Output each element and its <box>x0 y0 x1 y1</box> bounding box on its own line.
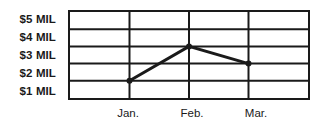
y-axis-label-group: $5 MIL $4 MIL $3 MIL $2 MIL $1 MIL <box>0 10 62 100</box>
x-tick-label-mar: Mar. <box>226 104 286 122</box>
data-point-mar <box>246 61 252 67</box>
x-tick-label-jan: Jan. <box>98 104 158 122</box>
y-tick-label-1: $1 MIL <box>0 82 62 100</box>
x-axis-label-group: Jan. Feb. Mar. <box>68 104 310 122</box>
data-point-jan <box>127 78 133 84</box>
data-point-feb <box>186 43 192 49</box>
y-tick-label-2: $2 MIL <box>0 64 62 82</box>
line-chart-figure: $5 MIL $4 MIL $3 MIL $2 MIL $1 MIL Jan. … <box>0 0 331 127</box>
x-tick-label-feb: Feb. <box>162 104 222 122</box>
y-tick-label-4: $4 MIL <box>0 28 62 46</box>
y-tick-label-3: $3 MIL <box>0 46 62 64</box>
y-tick-label-5: $5 MIL <box>0 10 62 28</box>
data-series-line <box>70 12 308 98</box>
plot-area <box>68 10 310 100</box>
